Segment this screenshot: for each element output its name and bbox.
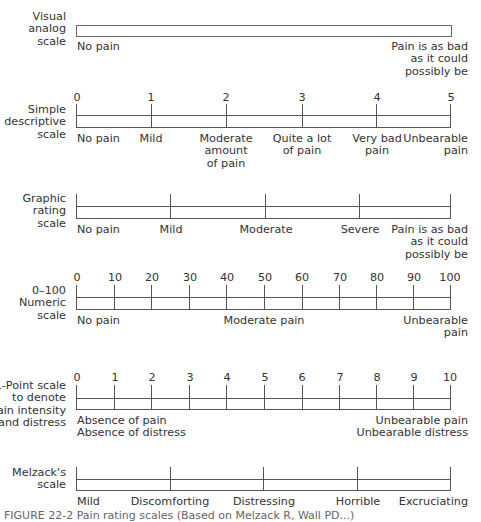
grs-base-line bbox=[76, 218, 451, 219]
nrs100-title: 0–100 Numeric scale bbox=[19, 285, 66, 322]
melzack-title: Melzack's scale bbox=[12, 467, 66, 492]
vas-title: Visual analog scale bbox=[28, 11, 66, 48]
nrs11-number: 7 bbox=[336, 372, 343, 384]
sds-number: 4 bbox=[373, 92, 380, 104]
sds-descriptor: Quite a lot of pain bbox=[273, 133, 332, 158]
melzack-descriptor: Distressing bbox=[233, 496, 295, 508]
nrs11-title: 11-Point scale to denote pain intensity … bbox=[0, 380, 66, 429]
vas-bar bbox=[76, 25, 452, 37]
nrs11-number: 4 bbox=[223, 372, 230, 384]
sds-descriptor-line: pain bbox=[352, 145, 402, 157]
nrs100-number: 90 bbox=[407, 272, 421, 284]
nrs100-right-anchor-line: pain bbox=[403, 327, 468, 339]
melzack-descriptor: Mild bbox=[77, 496, 100, 508]
melzack-base-line bbox=[76, 490, 451, 491]
nrs11-left-anchor: Absence of pain Absence of distress bbox=[77, 415, 186, 440]
nrs11-left-anchor-line: Absence of distress bbox=[77, 427, 186, 439]
nrs11-number: 2 bbox=[148, 372, 155, 384]
nrs100-number: 80 bbox=[370, 272, 384, 284]
nrs11-title-line: and distress bbox=[0, 417, 66, 429]
nrs100-number: 100 bbox=[439, 272, 460, 284]
sds-title-line: scale bbox=[4, 129, 66, 141]
nrs11-number: 3 bbox=[186, 372, 193, 384]
grs-title-line: rating bbox=[22, 205, 66, 217]
vas-right-anchor: Pain is as bad as it could possibly be bbox=[391, 41, 468, 78]
sds-descriptor-line: of pain bbox=[199, 158, 252, 170]
grs-descriptor: Mild bbox=[160, 224, 183, 236]
nrs11-number: 5 bbox=[261, 372, 268, 384]
sds-base-line bbox=[76, 127, 451, 128]
nrs11-number: 1 bbox=[111, 372, 118, 384]
grs-descriptor: Moderate bbox=[239, 224, 292, 236]
sds-descriptor: Mild bbox=[140, 133, 163, 145]
grs-title-line: scale bbox=[22, 218, 66, 230]
nrs11-number: 8 bbox=[373, 372, 380, 384]
sds-number: 2 bbox=[222, 92, 229, 104]
sds-number: 0 bbox=[73, 92, 80, 104]
nrs100-number: 20 bbox=[145, 272, 159, 284]
sds-mid-line bbox=[76, 115, 451, 116]
nrs100-middle-anchor: Moderate pain bbox=[224, 315, 305, 327]
sds-number: 5 bbox=[447, 92, 454, 104]
nrs11-title-line: to denote bbox=[0, 392, 66, 404]
nrs11-right-anchor-line: Unbearable distress bbox=[356, 427, 468, 439]
grs-title: Graphic rating scale bbox=[22, 193, 66, 230]
sds-descriptor-line: of pain bbox=[273, 145, 332, 157]
vas-right-anchor-line: possibly be bbox=[391, 66, 468, 78]
nrs100-number: 10 bbox=[108, 272, 122, 284]
nrs11-number: 6 bbox=[298, 372, 305, 384]
nrs100-title-line: scale bbox=[19, 310, 66, 322]
nrs100-right-anchor: Unbearable pain bbox=[403, 315, 468, 340]
melzack-mid-line bbox=[76, 479, 451, 480]
vas-left-anchor: No pain bbox=[77, 41, 120, 53]
nrs100-left-anchor: No pain bbox=[77, 315, 120, 327]
sds-title: Simple descriptive scale bbox=[4, 104, 66, 141]
nrs100-number: 0 bbox=[73, 272, 80, 284]
melzack-descriptor: Horrible bbox=[336, 496, 380, 508]
vas-title-line: analog bbox=[28, 23, 66, 35]
nrs11-right-anchor: Unbearable pain Unbearable distress bbox=[356, 415, 468, 440]
vas-right-anchor-line: as it could bbox=[391, 53, 468, 65]
sds-number: 3 bbox=[298, 92, 305, 104]
nrs100-number: 30 bbox=[183, 272, 197, 284]
sds-descriptor: Very bad pain bbox=[352, 133, 402, 158]
nrs11-number: 10 bbox=[443, 372, 457, 384]
grs-descriptor: No pain bbox=[77, 224, 120, 236]
figure-caption: FIGURE 22-2 Pain rating scales (Based on… bbox=[4, 509, 354, 522]
nrs100-number: 60 bbox=[295, 272, 309, 284]
grs-right-anchor-line: as it could bbox=[391, 236, 468, 248]
vas-title-line: scale bbox=[28, 36, 66, 48]
nrs11-base-line bbox=[76, 409, 451, 410]
nrs100-mid-line bbox=[76, 297, 451, 298]
nrs100-base-line bbox=[76, 309, 451, 310]
sds-descriptor: No pain bbox=[77, 133, 120, 145]
sds-descriptor-line: amount bbox=[199, 145, 252, 157]
sds-number: 1 bbox=[147, 92, 154, 104]
sds-title-line: descriptive bbox=[4, 116, 66, 128]
sds-descriptor: Moderate amount of pain bbox=[199, 133, 252, 170]
nrs11-number: 0 bbox=[73, 372, 80, 384]
nrs100-number: 50 bbox=[258, 272, 272, 284]
grs-right-anchor-line: possibly be bbox=[391, 249, 468, 261]
melzack-descriptor: Excruciating bbox=[399, 496, 468, 508]
nrs100-title-line: Numeric bbox=[19, 297, 66, 309]
grs-descriptor: Severe bbox=[341, 224, 380, 236]
nrs100-number: 70 bbox=[333, 272, 347, 284]
nrs11-mid-line bbox=[76, 398, 451, 399]
nrs11-number: 9 bbox=[410, 372, 417, 384]
nrs100-number: 40 bbox=[220, 272, 234, 284]
melzack-title-line: scale bbox=[12, 479, 66, 491]
sds-descriptor: Unbearable pain bbox=[403, 133, 468, 158]
grs-right-anchor: Pain is as bad as it could possibly be bbox=[391, 224, 468, 261]
melzack-descriptor: Discomforting bbox=[131, 496, 210, 508]
sds-descriptor-line: pain bbox=[403, 145, 468, 157]
grs-mid-line bbox=[76, 206, 451, 207]
